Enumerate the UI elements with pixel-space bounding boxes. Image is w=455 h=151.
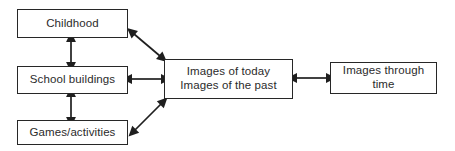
node-images-today-past-label: Images of today Images of the past [180,65,276,92]
node-games-activities-label: Games/activities [30,126,116,140]
node-school-buildings[interactable]: School buildings [17,66,128,94]
node-images-through-time-label: Images through time [331,64,436,91]
diagram-canvas: Childhood School buildings Games/activit… [0,0,455,151]
connector-childhood-images [134,34,160,56]
node-school-buildings-label: School buildings [30,73,115,87]
node-images-today-past[interactable]: Images of today Images of the past [164,59,293,99]
node-childhood[interactable]: Childhood [17,9,128,38]
node-images-through-time[interactable]: Images through time [330,62,437,94]
node-games-activities[interactable]: Games/activities [17,120,128,145]
connector-games-images [135,104,161,130]
node-childhood-label: Childhood [46,17,99,31]
